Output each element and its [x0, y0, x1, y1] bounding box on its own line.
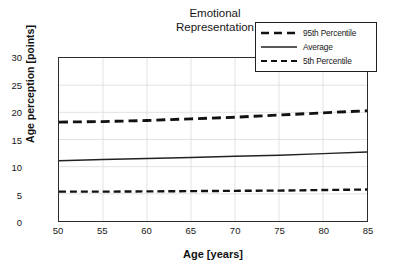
y-axis-label: Age perception [points]	[24, 0, 36, 184]
x-tick-label: 50	[43, 225, 73, 236]
y-tick-label: 0	[0, 217, 22, 228]
chart-container: Emotional Representation 051015202530 50…	[0, 0, 396, 280]
chart-legend: 95th Percentile Average 5th Percentile	[255, 22, 377, 72]
x-tick-label: 85	[353, 225, 383, 236]
legend-label: 5th Percentile	[303, 56, 352, 66]
solid-line-icon	[260, 41, 298, 53]
x-axis-label: Age [years]	[58, 248, 368, 260]
y-tick-label: 15	[0, 134, 22, 145]
dashed-thin-line-icon	[260, 55, 298, 67]
x-tick-label: 55	[87, 225, 117, 236]
legend-label: Average	[303, 42, 333, 52]
x-tick-label: 75	[264, 225, 294, 236]
series-lines	[59, 58, 367, 221]
y-tick-label: 5	[0, 189, 22, 200]
x-tick-label: 60	[132, 225, 162, 236]
legend-item-5th-percentile: 5th Percentile	[260, 54, 372, 68]
y-tick-label: 20	[0, 107, 22, 118]
legend-label: 95th Percentile	[303, 28, 356, 38]
legend-item-average: Average	[260, 40, 372, 54]
plot-area	[58, 57, 368, 222]
y-tick-label: 25	[0, 79, 22, 90]
x-tick-label: 65	[176, 225, 206, 236]
x-tick-label: 70	[220, 225, 250, 236]
legend-item-95th-percentile: 95th Percentile	[260, 26, 372, 40]
y-tick-label: 10	[0, 162, 22, 173]
x-tick-label: 80	[309, 225, 339, 236]
chart-title-line-1: Emotional	[120, 7, 310, 21]
dashed-thick-line-icon	[260, 27, 298, 39]
y-tick-label: 30	[0, 52, 22, 63]
